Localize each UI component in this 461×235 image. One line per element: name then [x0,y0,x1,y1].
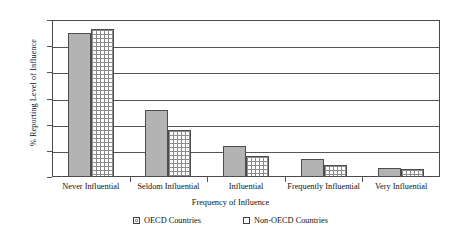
x-tick-mark [362,177,363,182]
hatched-white-square-icon [243,217,250,224]
legend-item-oecd: OECD Countries [133,216,201,225]
bar-chart: % Reporting Level of Influence 010203040… [0,0,461,235]
bar-non-oecd [91,29,114,177]
bar-group [378,20,424,177]
filled-gray-square-icon [133,217,140,224]
bar-non-oecd [401,169,424,177]
bars-layer [52,20,440,177]
x-axis-title: Frequency of Influence [0,198,461,207]
bar-group [223,20,269,177]
x-tick-mark [130,177,131,182]
bar-oecd [301,159,324,177]
legend-label-oecd: OECD Countries [144,216,201,225]
bar-oecd [378,168,401,177]
bar-group [145,20,191,177]
x-tick-mark [207,177,208,182]
x-category-label: Never Influential [62,182,119,191]
bar-non-oecd [246,156,269,177]
x-category-label: Seldom Influential [137,182,199,191]
x-tick-mark [285,177,286,182]
bar-non-oecd [324,165,347,177]
x-category-label: Very Influential [375,182,427,191]
y-axis-title: % Reporting Level of Influence [29,8,38,178]
bar-group [68,20,114,177]
x-category-label: Influential [229,182,264,191]
x-category-label: Frequently Influential [287,182,360,191]
legend-label-non-oecd: Non-OECD Countries [254,216,328,225]
y-tick-mark [47,177,52,178]
bar-oecd [68,33,91,177]
bar-non-oecd [168,130,191,177]
chart-legend: OECD Countries Non-OECD Countries [0,216,461,225]
bar-oecd [145,110,168,177]
legend-item-non-oecd: Non-OECD Countries [243,216,328,225]
bar-oecd [223,146,246,177]
bar-group [301,20,347,177]
